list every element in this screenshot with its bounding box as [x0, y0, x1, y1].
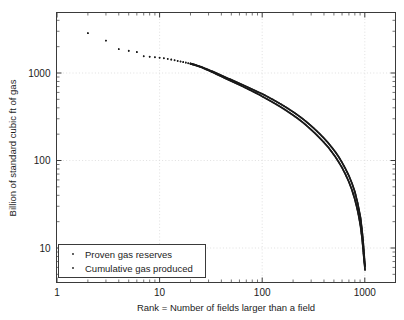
- chart-figure: 1101001000 101001000 Rank = Number of fi…: [0, 0, 404, 320]
- data-point: [167, 58, 169, 60]
- data-point: [174, 60, 176, 62]
- legend-marker-icon-1: [72, 267, 74, 269]
- chart-legend: Proven gas reserves Cumulative gas produ…: [59, 245, 206, 278]
- legend-label-0: Proven gas reserves: [85, 249, 172, 260]
- data-point: [159, 57, 161, 59]
- x-tick-label: 1: [54, 287, 60, 298]
- data-point: [182, 61, 184, 63]
- data-point: [105, 40, 107, 42]
- data-point: [154, 56, 156, 58]
- y-tick-label: 100: [34, 155, 51, 166]
- data-point: [128, 50, 130, 52]
- x-tick-label: 100: [254, 287, 271, 298]
- data-point: [118, 48, 120, 50]
- data-point: [177, 60, 179, 62]
- y-tick-label: 10: [39, 243, 51, 254]
- x-tick-label: 1000: [354, 287, 377, 298]
- data-point: [136, 51, 138, 53]
- data-point: [185, 62, 187, 64]
- data-point: [170, 59, 172, 61]
- log-log-scatter-chart: 1101001000 101001000 Rank = Number of fi…: [0, 0, 404, 320]
- data-point: [180, 61, 182, 63]
- data-point: [187, 62, 189, 64]
- legend-marker-icon-0: [72, 253, 74, 255]
- data-point: [163, 58, 165, 60]
- data-point: [149, 56, 151, 58]
- data-point: [143, 56, 145, 58]
- y-tick-label: 1000: [28, 68, 51, 79]
- data-point: [87, 32, 89, 34]
- legend-label-1: Cumulative gas produced: [85, 263, 193, 274]
- y-axis-title: Billion of standard cubic ft of gas: [7, 79, 18, 216]
- data-point: [364, 269, 366, 271]
- x-tick-label: 10: [154, 287, 166, 298]
- x-axis-title: Rank = Number of fields larger than a fi…: [137, 302, 315, 313]
